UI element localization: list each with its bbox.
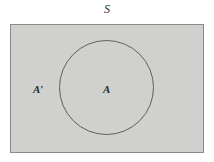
set-diagram: S A′ A	[0, 0, 214, 162]
universal-set-label: S	[0, 2, 214, 16]
set-a-label: A	[103, 83, 110, 95]
universal-set-region: A′ A	[10, 24, 204, 153]
complement-label: A′	[33, 83, 43, 95]
